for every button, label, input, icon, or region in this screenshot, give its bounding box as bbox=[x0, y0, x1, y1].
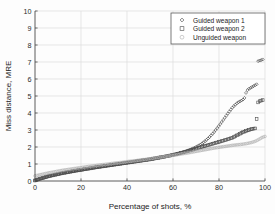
square-data-marker bbox=[255, 118, 258, 121]
y-tick-label: 8 bbox=[28, 41, 32, 50]
x-axis-title: Percentage of shots, % bbox=[109, 202, 192, 211]
chart-plot: 012345678910020406080100 Percentage of s… bbox=[0, 0, 275, 214]
y-axis-title: Miss distance, MRE bbox=[4, 61, 13, 132]
y-tick-label: 5 bbox=[28, 92, 32, 101]
x-tick-label: 60 bbox=[169, 183, 177, 192]
y-tick-label: 3 bbox=[28, 126, 32, 135]
y-tick-label: 6 bbox=[28, 75, 32, 84]
y-tick-label: 9 bbox=[28, 24, 32, 33]
legend-label: Unguided weapon bbox=[193, 34, 246, 42]
y-tick-label: 2 bbox=[28, 143, 32, 152]
x-tick-label: 40 bbox=[123, 183, 131, 192]
y-tick-label: 4 bbox=[28, 109, 32, 118]
diamond-data-marker bbox=[245, 91, 248, 94]
chart-legend[interactable]: Guided weapon 1Guided weapon 2Unguided w… bbox=[171, 13, 265, 44]
x-tick-label: 100 bbox=[259, 183, 271, 192]
diamond-data-marker bbox=[258, 59, 261, 62]
y-tick-label: 0 bbox=[28, 177, 32, 186]
x-tick-label: 20 bbox=[77, 183, 85, 192]
diamond-data-marker bbox=[243, 96, 246, 99]
y-tick-label: 10 bbox=[24, 7, 32, 16]
y-tick-label: 1 bbox=[28, 160, 32, 169]
figure-canvas: 012345678910020406080100 Percentage of s… bbox=[0, 0, 275, 214]
data-series-group bbox=[34, 58, 267, 182]
series-diamond bbox=[34, 58, 265, 182]
x-tick-label: 80 bbox=[215, 183, 223, 192]
legend-label: Guided weapon 2 bbox=[193, 25, 245, 33]
series-circle bbox=[34, 135, 267, 177]
x-tick-label: 0 bbox=[33, 183, 37, 192]
series-square bbox=[34, 99, 264, 182]
legend-label: Guided weapon 1 bbox=[193, 17, 245, 25]
y-tick-label: 7 bbox=[28, 58, 32, 67]
